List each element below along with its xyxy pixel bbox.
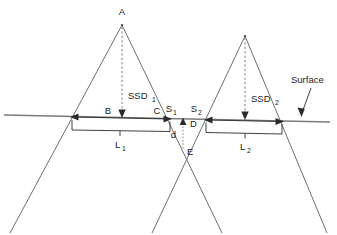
label-separation-depth: d [171,129,176,140]
field-length-left-bracket [72,120,170,132]
label-ssd2-subscript: 2 [275,99,279,106]
beam-right-group [152,36,327,233]
label-s2-base: S [191,103,197,114]
label-surface: Surface [291,74,324,85]
label-ssd2-base: SSD [251,93,271,104]
label-ssd-left: SSD 1 [128,90,156,103]
label-field-length-right: L 2 [240,141,251,154]
label-l1-base: L [115,139,120,150]
beam-left-group [10,25,222,233]
label-ssd1-subscript: 1 [152,96,156,103]
apex-right-point-marker [244,35,246,37]
label-s1-base: S [166,103,172,114]
ssd-right-axis-group [241,38,248,120]
label-s2-subscript: 2 [198,109,202,116]
field-length-right-arrow-start-icon [204,117,213,124]
label-match-point-left: S 1 [166,103,177,116]
field-length-right-bracket [206,123,282,135]
ssd-left-arrowhead-icon [118,110,125,119]
label-l2-base: L [240,141,245,152]
label-ssd-right: SSD 2 [251,93,279,106]
surface-callout-line [303,88,311,110]
radiation-field-diagram: A B C S 1 S 2 D E d SSD 1 SSD 2 L 1 L 2 [0,0,337,235]
surface-callout [298,88,312,117]
label-point-c: C [154,105,161,116]
ssd-right-arrowhead-icon [241,112,248,121]
beam-right-left-edge-line [152,36,245,233]
label-match-point-right: S 2 [191,103,202,116]
label-ssd1-base: SSD [128,90,148,101]
label-l2-subscript: 2 [247,147,251,154]
field-length-left-arrow-end-icon [164,116,173,123]
label-point-b: B [105,105,111,116]
junction-depth-measure [180,118,187,150]
label-s1-subscript: 1 [173,109,177,116]
ssd-left-axis-group [118,27,125,118]
label-apex-left: A [119,6,126,17]
apex-left-point-marker [121,24,123,26]
label-l1-subscript: 1 [122,145,126,152]
label-point-e: E [187,146,193,157]
label-point-d: D [190,118,197,129]
diagram-canvas: A B C S 1 S 2 D E d SSD 1 SSD 2 L 1 L 2 [0,0,337,235]
beam-right-right-edge-line [245,36,327,233]
beam-left-edge-line [10,25,122,233]
label-field-length-left: L 1 [115,139,126,152]
surface-callout-arrowhead-icon [298,108,305,117]
